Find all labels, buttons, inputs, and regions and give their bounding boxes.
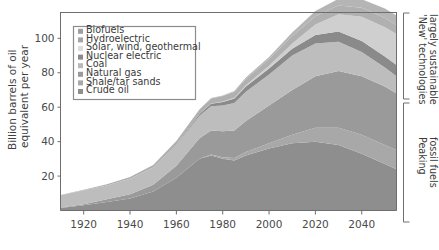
legend-swatch [78,37,83,42]
y-axis-label-line2: equivalent per year [18,44,30,148]
x-tick-label: 1940 [117,218,144,230]
y-tick-label: 20 [41,170,54,182]
x-ticks-group: 1920194019601980200020202040 [70,211,375,230]
top-bracket-label-line1: 'New' technologies [417,14,428,104]
x-tick-label: 2020 [302,218,329,230]
y-tick-label: 60 [41,101,54,113]
legend[interactable]: BiofuelsHydroelectricSolar, wind, geothe… [74,24,201,100]
legend-swatch [78,89,83,94]
bottom-bracket-label-line1: Peaking [417,137,428,175]
x-tick-label: 1980 [209,218,236,230]
legend-swatch [78,63,83,68]
annotation-bracket-top: 'New' technologies largely sustainable [404,13,439,105]
y-tick-label: 40 [41,135,54,147]
x-tick-label: 2000 [256,218,283,230]
bottom-bracket-shape [404,103,410,222]
y-tick-label: 100 [34,32,54,44]
chart-canvas: 20406080100 1920194019601980200020202040… [0,0,439,250]
top-bracket-label-line2: largely sustainable [428,14,439,105]
y-tick-label: 80 [41,66,54,78]
top-bracket-shape [404,13,410,99]
legend-swatch [78,29,83,34]
x-tick-label: 1960 [163,218,190,230]
legend-swatch [78,55,83,60]
stacked-area-chart-figure: 20406080100 1920194019601980200020202040… [0,0,439,250]
y-axis-label-line1: Billion barrels of oil [6,49,18,150]
legend-swatch [78,72,83,77]
annotation-bracket-bottom: Peaking fossil fuels [404,103,439,222]
legend-swatch [78,46,83,51]
x-tick-label: 1920 [70,218,97,230]
y-axis-label: Billion barrels of oil equivalent per ye… [6,44,30,150]
bottom-bracket-label-line2: fossil fuels [428,137,439,188]
y-ticks-group: 20406080100 [34,32,60,182]
legend-swatch [78,80,83,85]
legend-label[interactable]: Crude oil [86,84,129,95]
x-tick-label: 2040 [348,218,375,230]
